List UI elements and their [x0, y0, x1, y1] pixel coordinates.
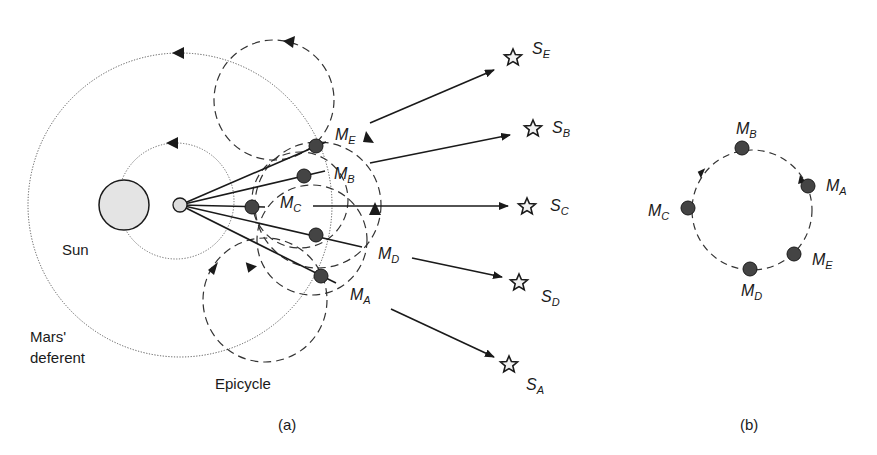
mars-dot-e [309, 139, 323, 153]
earth-mars-sightlines [180, 142, 362, 283]
apparent-dot-c [681, 201, 695, 215]
panel-b-caption: (b) [740, 416, 758, 433]
star-icon-b [525, 120, 542, 136]
apparent-dot-a [801, 179, 815, 193]
apparent-positions [681, 141, 815, 276]
label-m-d: MD [378, 245, 399, 265]
label-s-e: SE [532, 40, 551, 60]
epicycle-diagram: Sun ME MB MC MD MA SE SB SC SD SA [0, 0, 877, 455]
sun [99, 180, 149, 230]
loop-direction-arrow-icon [697, 168, 706, 178]
apparent-dot-d [743, 262, 757, 276]
mars-dot-b [297, 169, 311, 183]
star-icon-a [501, 356, 518, 372]
epicycle-top-arrow-icon [283, 36, 295, 48]
star-icon-e [505, 49, 522, 65]
sun-label: Sun [62, 241, 89, 258]
b-label-m-a: MA [826, 177, 847, 197]
panel-b: MB MA MC ME MD (b) [648, 120, 847, 433]
epicycle-right-up-arrow-icon [369, 202, 381, 215]
b-label-m-d: MD [741, 282, 762, 302]
label-m-c: MC [280, 194, 301, 214]
b-label-m-b: MB [736, 120, 757, 140]
label-s-d: SD [541, 288, 560, 308]
panel-a: Sun ME MB MC MD MA SE SB SC SD SA [28, 36, 570, 433]
b-label-m-c: MC [648, 202, 669, 222]
epicycle-bottom [203, 238, 327, 362]
mars-dot-d [309, 228, 323, 242]
mars-star-arrows [313, 70, 510, 357]
label-m-e: ME [335, 126, 356, 146]
label-s-c: SC [550, 197, 569, 217]
deferent-label-line1: Mars' [30, 328, 66, 345]
star-icon-d [511, 274, 528, 290]
epicycle-inner-arrow-icon [243, 262, 257, 275]
deferent-label-line2: deferent [30, 349, 86, 366]
mars-dot-c [245, 200, 259, 214]
epicycle-label: Epicycle [215, 375, 271, 392]
mars-positions [245, 139, 328, 283]
deferent-direction-arrow-icon [172, 47, 184, 59]
epicycle-right [255, 142, 381, 268]
epicycle-right-arrow-icon [363, 131, 374, 143]
label-m-b: MB [334, 165, 355, 185]
b-label-m-e: ME [812, 251, 833, 271]
stars [501, 49, 542, 372]
earth [173, 198, 187, 212]
apparent-dot-e [787, 247, 801, 261]
label-s-b: SB [552, 119, 570, 139]
apparent-dot-b [735, 141, 749, 155]
star-icon-c [519, 198, 536, 214]
mars-dot-a [314, 269, 328, 283]
label-s-a: SA [526, 376, 544, 396]
inner-orbit-arrow-icon [166, 137, 178, 149]
label-m-a: MA [350, 286, 371, 306]
panel-a-caption: (a) [278, 416, 296, 433]
